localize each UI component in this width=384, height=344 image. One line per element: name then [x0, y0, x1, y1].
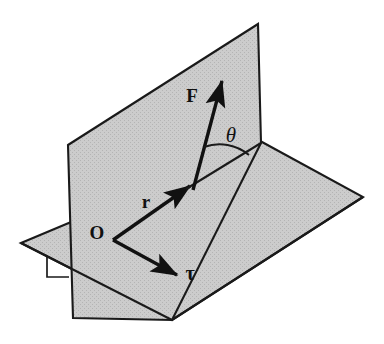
- position-label: r: [142, 191, 151, 212]
- torque-label: τ: [185, 262, 194, 284]
- torque-diagram-figure: F r τ O θ: [0, 0, 384, 344]
- angle-label: θ: [226, 123, 236, 147]
- force-label: F: [186, 85, 198, 106]
- origin-label: O: [90, 222, 105, 243]
- torque-diagram-svg: F r τ O θ: [0, 0, 384, 344]
